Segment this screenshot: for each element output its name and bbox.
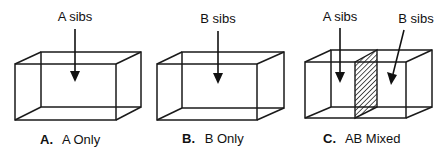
panel-letter: A. xyxy=(40,132,53,147)
panel-caption: B Only xyxy=(205,131,245,146)
box-edge xyxy=(15,107,41,120)
sibling-container-diagram: A sibs A. A Only B sibs B. B Only xyxy=(0,0,446,154)
box-edge xyxy=(305,107,331,118)
box-edge xyxy=(257,108,284,120)
arrow-label: B sibs xyxy=(200,11,236,26)
svg-text:B. B Only: B. B Only xyxy=(182,131,244,146)
box-back-face xyxy=(331,50,432,107)
panel-a: A sibs A. A Only xyxy=(15,9,141,147)
arrow-label: B sibs xyxy=(398,11,434,26)
arrow-b-sibs xyxy=(213,31,223,84)
box-edge xyxy=(157,108,182,120)
panel-letter: B. xyxy=(182,131,195,146)
arrow-label: A sibs xyxy=(323,9,358,24)
box-b xyxy=(157,52,284,120)
arrowhead-icon xyxy=(213,73,223,84)
arrow-label: A sibs xyxy=(58,9,93,24)
svg-text:C. AB Mixed: C. AB Mixed xyxy=(323,131,401,146)
box-edge xyxy=(305,50,331,62)
box-c xyxy=(305,50,432,118)
arrow-b-sibs xyxy=(387,30,404,85)
box-edge xyxy=(257,52,284,64)
panel-letter: C. xyxy=(323,131,336,146)
arrow-a-sibs xyxy=(335,28,345,83)
box-edge xyxy=(15,52,41,64)
arrowhead-icon xyxy=(70,71,80,82)
panel-b: B sibs B. B Only xyxy=(157,11,284,146)
box-back-face xyxy=(41,52,141,107)
box-edge xyxy=(116,52,141,64)
box-a xyxy=(15,52,141,120)
box-edge xyxy=(157,52,182,64)
panel-caption: A Only xyxy=(62,132,101,147)
hatched-partition xyxy=(355,50,377,118)
svg-text:A. A Only: A. A Only xyxy=(40,132,101,147)
box-edge xyxy=(406,50,432,62)
box-edge xyxy=(116,107,141,120)
panel-caption: AB Mixed xyxy=(345,131,401,146)
arrow-a-sibs xyxy=(70,29,80,82)
box-edge xyxy=(406,107,432,118)
arrowhead-icon xyxy=(387,72,397,85)
box-back-face xyxy=(182,52,284,108)
box-front-face xyxy=(157,64,257,120)
arrowhead-icon xyxy=(335,72,345,83)
panel-c: A sibs B sibs C. AB Mixed xyxy=(305,9,434,146)
